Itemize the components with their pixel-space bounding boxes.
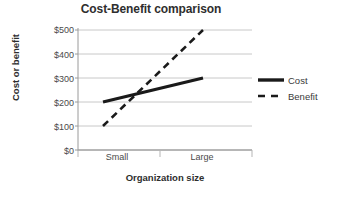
chart-legend: Cost Benefit: [258, 72, 336, 104]
legend-item-cost: Cost: [258, 72, 336, 88]
series-line-cost: [103, 78, 203, 102]
legend-item-benefit: Benefit: [258, 88, 336, 104]
legend-label-benefit: Benefit: [288, 91, 318, 102]
legend-label-cost: Cost: [288, 75, 308, 86]
dashed-line-swatch-icon: [258, 91, 284, 101]
chart-container: Cost-Benefit comparison Cost or benefit …: [0, 0, 337, 197]
axes: [75, 28, 252, 157]
gridlines: [78, 30, 252, 150]
solid-line-swatch-icon: [258, 75, 284, 85]
